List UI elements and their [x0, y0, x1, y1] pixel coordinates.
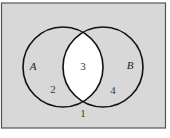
region-1-label: 1: [80, 107, 86, 119]
region-3-label: 3: [80, 60, 86, 72]
set-b-label: B: [127, 59, 134, 71]
venn-diagram: A B 3 2 4 1: [0, 0, 170, 138]
region-4-label: 4: [110, 84, 116, 96]
set-a-label: A: [29, 60, 37, 72]
region-2-label: 2: [50, 83, 56, 95]
